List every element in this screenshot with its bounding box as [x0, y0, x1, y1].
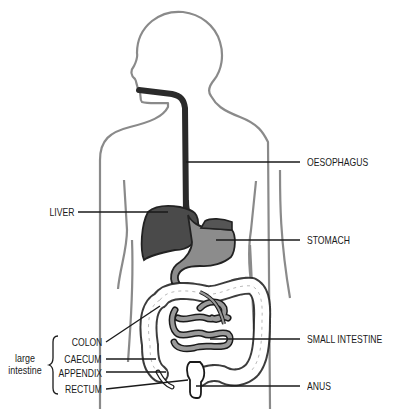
label-colon: COLON	[71, 336, 102, 348]
large-intestine-brace	[49, 336, 58, 394]
label-appendix: APPENDIX	[58, 367, 102, 379]
label-anus: ANUS	[307, 380, 331, 392]
label-large-intestine-line2: intestine	[5, 364, 44, 376]
left-arm-inner-line	[118, 180, 127, 289]
label-stomach: STOMACH	[307, 234, 350, 246]
rectum	[187, 362, 204, 398]
label-large-intestine-line1: large	[5, 352, 44, 364]
label-small-intestine: SMALL INTESTINE	[307, 333, 382, 345]
label-oesophagus: OESOPHAGUS	[307, 156, 368, 168]
stomach-top-lobe	[201, 219, 232, 230]
digestive-system-diagram	[0, 0, 394, 409]
oesophagus	[139, 90, 186, 215]
right-side-line	[280, 170, 290, 298]
label-rectum: RECTUM	[65, 383, 102, 395]
left-waist-line	[128, 240, 133, 362]
label-caecum: CAECUM	[65, 353, 102, 365]
label-liver: LIVER	[49, 206, 74, 218]
label-large-intestine: large intestine	[5, 352, 44, 376]
